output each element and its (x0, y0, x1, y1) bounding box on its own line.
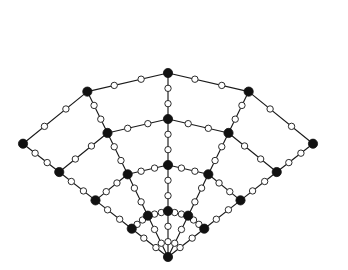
lattice-node-minor (68, 178, 74, 184)
lattice-node-minor (151, 226, 157, 232)
lattice-node-minor (192, 168, 198, 174)
lattice-node-major (272, 167, 281, 176)
lattice-node-minor (172, 240, 178, 246)
lattice-figure (0, 0, 348, 270)
lattice-node-minor (153, 244, 159, 250)
lattice-node-minor (111, 82, 117, 88)
lattice-node-minor (104, 207, 110, 213)
lattice-node-minor (138, 199, 144, 205)
lattice-node-minor (165, 146, 171, 152)
lattice-node-major (103, 128, 112, 137)
lattice-node-major (200, 224, 209, 233)
lattice-node-minor (198, 185, 204, 191)
lattice-node-minor (288, 123, 294, 129)
lattice-node-minor (267, 106, 273, 112)
lattice-node-minor (185, 120, 191, 126)
lattice-node-minor (114, 180, 120, 186)
lattice-node-minor (216, 180, 222, 186)
lattice-node-minor (63, 106, 69, 112)
lattice-diagram (0, 0, 348, 270)
lattice-node-minor (138, 76, 144, 82)
lattice-node-minor (141, 235, 147, 241)
lattice-node-major (55, 167, 64, 176)
lattice-node-minor (165, 100, 171, 106)
lattice-node-major (236, 196, 245, 205)
lattice-node-minor (165, 85, 171, 91)
lattice-node-minor (103, 188, 109, 194)
lattice-node-major (143, 211, 152, 220)
lattice-node-minor (192, 76, 198, 82)
lattice-node-minor (241, 143, 247, 149)
lattice-node-minor (205, 125, 211, 131)
lattice-node-major (224, 128, 233, 137)
lattice-node-major (163, 68, 172, 77)
lattice-node-minor (177, 244, 183, 250)
lattice-node-minor (151, 165, 157, 171)
lattice-node-minor (32, 150, 38, 156)
lattice-node-minor (232, 116, 238, 122)
lattice-node-major (204, 170, 213, 179)
figure-background (0, 0, 348, 270)
lattice-node-minor (219, 82, 225, 88)
lattice-node-major (163, 206, 172, 215)
lattice-node-minor (261, 178, 267, 184)
lattice-node-major (184, 211, 193, 220)
lattice-node-minor (298, 150, 304, 156)
lattice-node-minor (165, 238, 171, 244)
lattice-node-minor (178, 226, 184, 232)
lattice-node-major (123, 170, 132, 179)
lattice-node-minor (213, 216, 219, 222)
lattice-node-minor (98, 116, 104, 122)
lattice-node-minor (225, 207, 231, 213)
lattice-node-major (308, 139, 317, 148)
lattice-node-minor (91, 102, 97, 108)
lattice-node-minor (165, 223, 171, 229)
lattice-node-minor (118, 157, 124, 163)
lattice-node-minor (165, 177, 171, 183)
lattice-node-minor (178, 165, 184, 171)
lattice-node-minor (158, 240, 164, 246)
lattice-node-minor (116, 216, 122, 222)
lattice-node-major (244, 87, 253, 96)
lattice-node-minor (189, 235, 195, 241)
lattice-node-minor (124, 125, 130, 131)
lattice-node-minor (111, 144, 117, 150)
lattice-node-minor (165, 131, 171, 137)
lattice-node-major (127, 224, 136, 233)
lattice-node-minor (249, 188, 255, 194)
lattice-node-minor (212, 157, 218, 163)
lattice-node-minor (88, 143, 94, 149)
lattice-node-minor (131, 185, 137, 191)
lattice-node-major (83, 87, 92, 96)
lattice-node-minor (219, 144, 225, 150)
lattice-node-minor (165, 192, 171, 198)
lattice-node-minor (145, 120, 151, 126)
lattice-node-minor (239, 102, 245, 108)
lattice-node-minor (41, 123, 47, 129)
lattice-node-major (163, 160, 172, 169)
lattice-node-minor (227, 188, 233, 194)
lattice-node-major (18, 139, 27, 148)
lattice-node-minor (286, 159, 292, 165)
lattice-node-minor (257, 156, 263, 162)
lattice-node-major (163, 252, 172, 261)
lattice-node-major (163, 114, 172, 123)
lattice-node-minor (192, 199, 198, 205)
lattice-node-minor (72, 156, 78, 162)
lattice-node-minor (80, 188, 86, 194)
lattice-node-major (91, 196, 100, 205)
lattice-node-minor (138, 168, 144, 174)
lattice-node-minor (44, 159, 50, 165)
